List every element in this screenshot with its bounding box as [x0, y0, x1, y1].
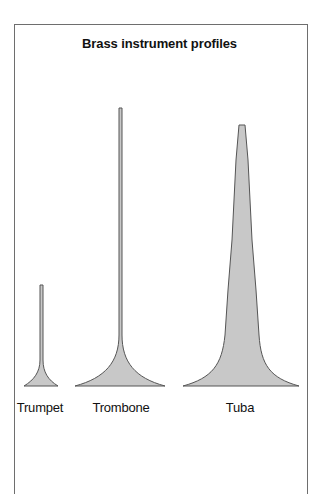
trombone-label: Trombone [92, 400, 149, 415]
trumpet-label: Trumpet [17, 400, 64, 415]
tuba-profile [183, 125, 299, 386]
trombone-profile [75, 108, 165, 386]
tuba-label: Tuba [226, 400, 254, 415]
trumpet-profile [24, 285, 58, 386]
